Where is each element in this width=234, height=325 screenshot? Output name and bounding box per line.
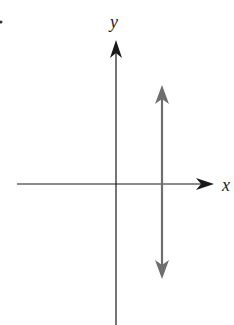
marker-dot	[0, 21, 3, 24]
x-axis-label: x	[221, 175, 230, 195]
coordinate-diagram: y x	[0, 0, 234, 325]
vertical-line	[155, 85, 169, 279]
y-axis-label: y	[108, 12, 118, 32]
y-axis	[110, 40, 122, 325]
